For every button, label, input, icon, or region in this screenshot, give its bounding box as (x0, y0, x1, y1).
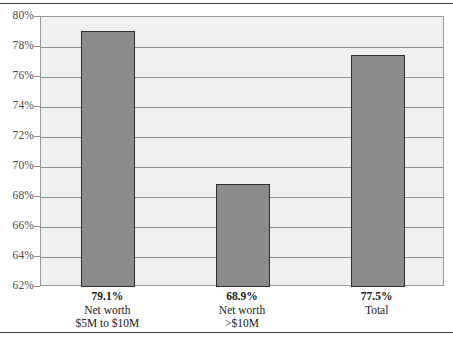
bar-value-label: 79.1% (40, 290, 175, 304)
bar-category-line-1: Total (309, 304, 444, 318)
bar-value-label: 68.9% (175, 290, 310, 304)
y-axis-tick-label: 68% (0, 190, 34, 202)
plot-area (40, 16, 444, 286)
bar-category-line-2: >$10M (175, 317, 310, 331)
y-axis-tick-label: 62% (0, 280, 34, 292)
y-axis-tick-label: 66% (0, 220, 34, 232)
bar-category-label: 68.9%Net worth>$10M (175, 290, 310, 331)
y-axis-tick-label: 72% (0, 130, 34, 142)
y-axis-tick-label: 80% (0, 10, 34, 22)
bar (351, 55, 405, 288)
bottom-divider-rule (0, 332, 453, 333)
bar-chart-figure: 80%78%76%74%72%70%68%66%64%62% 79.1%Net … (0, 0, 453, 341)
y-axis-tick-label: 70% (0, 160, 34, 172)
bar-category-label: 77.5%Total (309, 290, 444, 317)
y-axis-tick-label: 64% (0, 250, 34, 262)
top-divider-rule (0, 3, 453, 4)
bar-category-label: 79.1%Net worth$5M to $10M (40, 290, 175, 331)
bar (216, 184, 270, 288)
bar-category-line-2: $5M to $10M (40, 317, 175, 331)
y-axis-tick-label: 76% (0, 70, 34, 82)
y-axis-tick-label: 74% (0, 100, 34, 112)
y-axis-tick-mark (34, 286, 40, 287)
bar-category-line-1: Net worth (175, 304, 310, 318)
y-axis-tick-label: 78% (0, 40, 34, 52)
bar-category-line-1: Net worth (40, 304, 175, 318)
bar-value-label: 77.5% (309, 290, 444, 304)
bar (81, 31, 135, 288)
